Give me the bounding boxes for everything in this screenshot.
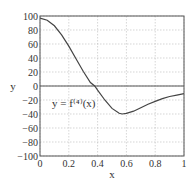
y-tick-label: 40: [28, 53, 38, 64]
y-tick-label: 20: [28, 67, 38, 78]
y-tick-label: 100: [23, 11, 38, 22]
y-tick-label: 80: [28, 25, 38, 36]
y-tick-label: −80: [22, 137, 38, 148]
y-tick-label: −60: [22, 123, 38, 134]
x-tick-label: 1: [182, 158, 187, 169]
x-tick-label: 0: [38, 158, 43, 169]
y-tick-label: −100: [17, 151, 38, 162]
y-tick-labels: 100806040200−20−40−60−80−100: [17, 11, 38, 162]
y-tick-label: 60: [28, 39, 38, 50]
y-tick-label: −20: [22, 95, 38, 106]
x-tick-label: 0.4: [91, 158, 104, 169]
x-tick-label: 0.8: [149, 158, 162, 169]
x-axis-label: x: [109, 168, 115, 180]
y-tick-label: 0: [33, 81, 38, 92]
x-tick-label: 0.6: [120, 158, 133, 169]
curve-annotation: y = f⁽⁴⁾(x): [52, 97, 96, 110]
y-axis-label: y: [10, 80, 16, 92]
chart: 100806040200−20−40−60−80−100 00.20.40.60…: [0, 0, 196, 186]
y-tick-label: −40: [22, 109, 38, 120]
x-tick-label: 0.2: [63, 158, 76, 169]
